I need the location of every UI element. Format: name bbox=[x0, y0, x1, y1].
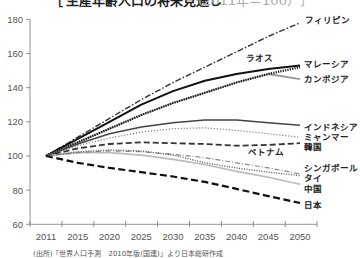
series-label: タイ bbox=[304, 173, 322, 183]
series-label: 韓国 bbox=[304, 142, 322, 152]
y-tick-label: 80 bbox=[12, 185, 23, 196]
title-open-bracket: ［ bbox=[50, 0, 63, 8]
x-tick-label: 2015 bbox=[67, 231, 88, 242]
source-note: (出所)「世界人口予測 2010年版(国連)」より日本総研作成 bbox=[33, 248, 223, 258]
series-label: インドネシア bbox=[304, 122, 358, 132]
x-tick-label: 2020 bbox=[99, 231, 120, 242]
title-close-bracket: ］ bbox=[300, 0, 313, 8]
title-subtitle: （2011年＝100） bbox=[190, 0, 300, 8]
series-line bbox=[46, 153, 300, 185]
series-label: フィリピン bbox=[305, 15, 350, 25]
x-axis: 201120152020202520302035204020452050 bbox=[30, 221, 317, 242]
x-tick-label: 2025 bbox=[131, 231, 152, 242]
x-tick-label: 2050 bbox=[289, 231, 310, 242]
chart: ［ 生産年齢人口の将来見通し （2011年＝100） ］ 18016014012… bbox=[0, 0, 360, 258]
series-label: シンガポール bbox=[304, 163, 358, 173]
series-line bbox=[46, 156, 300, 203]
series-label: ベトナム bbox=[248, 147, 284, 157]
x-tick-label: 2035 bbox=[194, 231, 215, 242]
series-label: カンボジア bbox=[304, 74, 349, 84]
y-axis: 1801601401201008060 bbox=[7, 14, 30, 230]
series-layer bbox=[46, 23, 300, 203]
chart-title: ［ 生産年齢人口の将来見通し （2011年＝100） ］ bbox=[50, 0, 313, 8]
x-tick-label: 2045 bbox=[258, 231, 279, 242]
x-tick-label: 2011 bbox=[36, 231, 56, 242]
series-label: マレーシア bbox=[304, 59, 349, 69]
series-label: ラオス bbox=[246, 53, 273, 63]
series-labels: フィリピンラオスマレーシアカンボジアインドネシアミャンマー韓国ベトナムシンガポー… bbox=[246, 15, 358, 210]
series-label: ミャンマー bbox=[304, 132, 349, 142]
series-label: 日本 bbox=[304, 200, 322, 210]
y-tick-label: 60 bbox=[12, 219, 23, 230]
series-label: 中国 bbox=[304, 184, 322, 194]
y-tick-label: 180 bbox=[7, 14, 23, 25]
y-tick-label: 100 bbox=[7, 150, 23, 161]
y-tick-label: 160 bbox=[7, 48, 23, 59]
x-tick-label: 2040 bbox=[226, 231, 247, 242]
x-tick-label: 2030 bbox=[162, 231, 183, 242]
y-tick-label: 120 bbox=[7, 116, 23, 127]
y-tick-label: 140 bbox=[7, 82, 23, 93]
chart-canvas: ［ 生産年齢人口の将来見通し （2011年＝100） ］ 18016014012… bbox=[0, 0, 360, 258]
